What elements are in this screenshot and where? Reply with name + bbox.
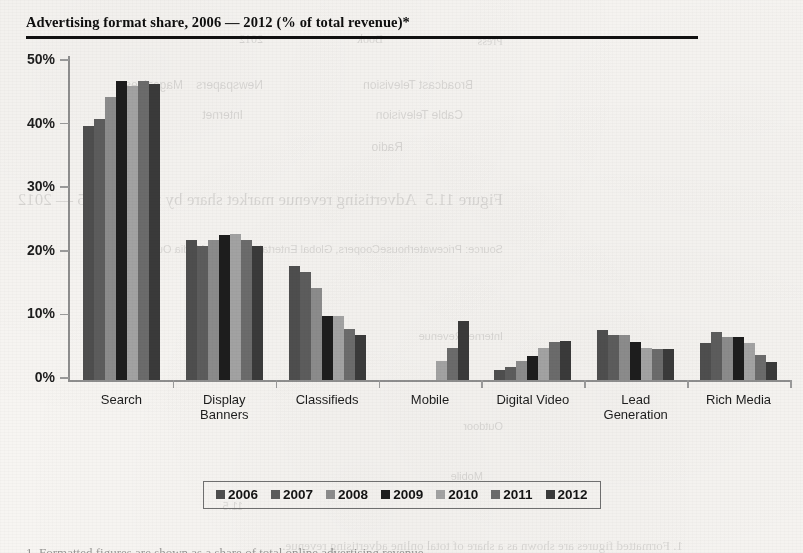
bar-rich-media-2008 (722, 337, 733, 380)
bar-group (289, 54, 366, 380)
category-label-line: Mobile (379, 392, 482, 407)
legend-item-2006[interactable]: 2006 (216, 487, 258, 502)
legend-label-2008: 2008 (338, 487, 368, 502)
x-axis-tick (276, 380, 278, 388)
footer-partial-text: 1. Formatted figures are shown as a shar… (26, 545, 786, 553)
bar-digital-video-2008 (516, 361, 527, 380)
bar-classifieds-2012 (355, 335, 366, 380)
bar-lead-generation-2011 (652, 349, 663, 380)
legend-item-2012[interactable]: 2012 (546, 487, 588, 502)
bar-group (494, 54, 571, 380)
chart-title-block: Advertising format share, 2006 — 2012 (%… (26, 14, 726, 39)
legend-swatch-2012 (546, 490, 555, 499)
chart-plot-area: 0%10%20%30%40%50% SearchDisplayBannersCl… (0, 52, 803, 422)
bar-search-2008 (105, 97, 116, 380)
legend-label-2006: 2006 (228, 487, 258, 502)
bar-display-banners-2008 (208, 240, 219, 380)
category-label-line: Search (70, 392, 173, 407)
bar-digital-video-2010 (538, 348, 549, 380)
x-axis-category-label: DisplayBanners (173, 392, 276, 422)
bar-display-banners-2010 (230, 234, 241, 380)
bar-digital-video-2009 (527, 356, 538, 380)
bar-classifieds-2009 (322, 316, 333, 380)
bar-display-banners-2009 (219, 235, 230, 380)
x-axis-category-label: LeadGeneration (584, 392, 687, 422)
legend-swatch-2011 (491, 490, 500, 499)
legend-item-2010[interactable]: 2010 (436, 487, 478, 502)
bar-display-banners-2011 (241, 240, 252, 380)
legend-label-2009: 2009 (393, 487, 423, 502)
x-axis-tick (584, 380, 586, 388)
x-axis-category-label: Search (70, 392, 173, 407)
bar-rich-media-2011 (755, 355, 766, 380)
category-label-line: Classifieds (276, 392, 379, 407)
legend-item-2008[interactable]: 2008 (326, 487, 368, 502)
title-divider (26, 36, 698, 39)
chart-legend: 2006200720082009201020112012 (203, 481, 601, 509)
bar-search-2009 (116, 81, 127, 380)
bar-lead-generation-2012 (663, 349, 674, 380)
bar-search-2010 (127, 86, 138, 380)
x-axis-category-label: Mobile (379, 392, 482, 407)
x-axis-tick (379, 380, 381, 388)
x-axis-tick (790, 380, 792, 388)
category-label-line: Display (173, 392, 276, 407)
bar-classifieds-2008 (311, 288, 322, 380)
bar-classifieds-2010 (333, 316, 344, 380)
legend-swatch-2009 (381, 490, 390, 499)
bar-display-banners-2006 (186, 240, 197, 380)
bar-lead-generation-2010 (641, 348, 652, 380)
legend-item-2009[interactable]: 2009 (381, 487, 423, 502)
category-label-line: Generation (584, 407, 687, 422)
bar-search-2006 (83, 126, 94, 380)
x-axis-tick (481, 380, 483, 388)
category-label-line: Lead (584, 392, 687, 407)
x-axis-category-label: Digital Video (481, 392, 584, 407)
bar-search-2012 (149, 84, 160, 380)
bar-rich-media-2007 (711, 332, 722, 380)
bar-classifieds-2011 (344, 329, 355, 380)
bar-group (83, 54, 160, 380)
x-axis-tick (687, 380, 689, 388)
category-label-line: Digital Video (481, 392, 584, 407)
x-axis-tick (173, 380, 175, 388)
legend-label-2010: 2010 (448, 487, 478, 502)
legend-swatch-2007 (271, 490, 280, 499)
bar-digital-video-2012 (560, 341, 571, 380)
bar-display-banners-2007 (197, 246, 208, 380)
legend-label-2011: 2011 (503, 487, 532, 502)
bar-search-2011 (138, 81, 149, 380)
category-label-line: Banners (173, 407, 276, 422)
bar-lead-generation-2007 (608, 335, 619, 380)
bar-display-banners-2012 (252, 246, 263, 380)
bar-rich-media-2010 (744, 343, 755, 380)
bar-group (700, 54, 777, 380)
page-title: Advertising format share, 2006 — 2012 (%… (26, 14, 726, 31)
bar-search-2007 (94, 119, 105, 380)
bar-lead-generation-2008 (619, 335, 630, 380)
legend-swatch-2006 (216, 490, 225, 499)
bar-rich-media-2006 (700, 343, 711, 380)
bar-group (186, 54, 263, 380)
bar-lead-generation-2009 (630, 342, 641, 380)
bar-mobile-2012 (458, 321, 469, 380)
bar-rich-media-2012 (766, 362, 777, 380)
bar-digital-video-2011 (549, 342, 560, 380)
legend-item-2007[interactable]: 2007 (271, 487, 313, 502)
bar-mobile-2010 (436, 361, 447, 380)
category-label-line: Rich Media (687, 392, 790, 407)
bar-series-container (0, 52, 803, 382)
bar-rich-media-2009 (733, 337, 744, 380)
bar-mobile-2011 (447, 348, 458, 380)
bar-group (392, 54, 469, 380)
bar-classifieds-2007 (300, 272, 311, 380)
bar-lead-generation-2006 (597, 330, 608, 380)
legend-item-2011[interactable]: 2011 (491, 487, 532, 502)
x-axis-category-label: Classifieds (276, 392, 379, 407)
legend-label-2007: 2007 (283, 487, 313, 502)
legend-swatch-2010 (436, 490, 445, 499)
bar-group (597, 54, 674, 380)
bar-digital-video-2006 (494, 370, 505, 380)
legend-swatch-2008 (326, 490, 335, 499)
bar-classifieds-2006 (289, 266, 300, 380)
